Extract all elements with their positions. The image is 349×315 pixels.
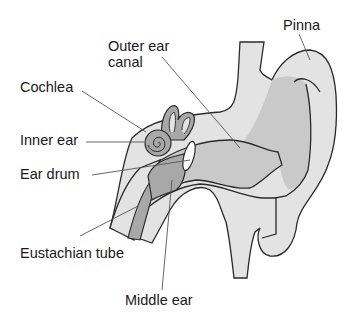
label-inner-ear: Inner ear — [20, 132, 78, 148]
label-eustachian-tube: Eustachian tube — [20, 245, 124, 261]
label-ear-drum: Ear drum — [20, 166, 80, 182]
label-outer-ear-canal-line1: Outer ear — [108, 38, 169, 54]
label-middle-ear: Middle ear — [125, 292, 193, 308]
label-pinna: Pinna — [283, 17, 320, 33]
label-outer-ear-canal: Outer ear canal — [108, 38, 169, 70]
label-cochlea: Cochlea — [20, 79, 73, 95]
label-outer-ear-canal-line2: canal — [108, 54, 169, 70]
ear-diagram — [0, 0, 349, 315]
